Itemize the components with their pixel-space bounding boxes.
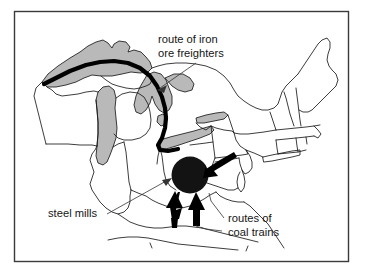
coal-routes-label-line2: coal trains (228, 226, 279, 238)
coal-arrow-south-shaft (193, 210, 200, 226)
map-figure: route of iron ore freighters steel mills… (0, 0, 365, 276)
steel-mills-marker (172, 157, 209, 194)
map-canvas: route of iron ore freighters steel mills… (0, 0, 365, 276)
ore-route-label-line2: ore freighters (158, 47, 224, 59)
ore-route-label-line1: route of iron (158, 33, 218, 45)
steel-mills-label: steel mills (48, 207, 98, 219)
coal-arrow-southwest-shaft (171, 218, 178, 228)
coal-routes-label-line1: routes of (228, 212, 272, 224)
